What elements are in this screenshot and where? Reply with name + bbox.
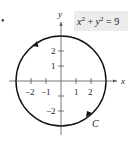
x-tick-label: −2 <box>25 87 35 97</box>
y-tick-label: 1 <box>51 61 56 71</box>
bullet-marker: • <box>1 15 5 26</box>
x-axis-label: x <box>120 76 125 86</box>
x-tick-label: −1 <box>41 87 51 97</box>
circle-diagram: • x2 + y2 = 9 x y −2 −1 1 2 2 1 −2 C <box>0 0 131 141</box>
y-tick-label: −2 <box>46 106 56 116</box>
y-tick-label: 2 <box>51 46 56 56</box>
curve-label: C <box>92 118 99 129</box>
x-tick-label: 2 <box>88 87 93 97</box>
y-axis-label: y <box>57 9 62 19</box>
x-tick-label: 1 <box>74 87 79 97</box>
